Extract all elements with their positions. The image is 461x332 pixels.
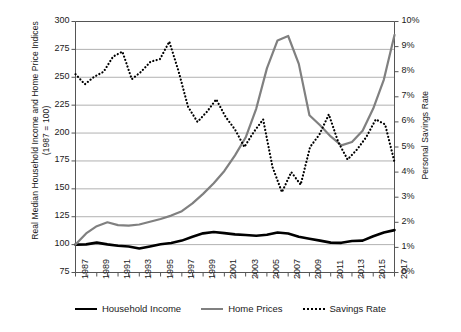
- y-axis-right-tick-label: 6%: [402, 115, 432, 125]
- series-line: [76, 42, 395, 193]
- y-axis-left-tick-label: 175: [34, 154, 70, 164]
- x-axis-tick-label: 2015: [377, 258, 387, 278]
- y-axis-right-tick-label: 2%: [402, 216, 432, 226]
- legend-item[interactable]: Home Prices: [201, 303, 282, 314]
- y-axis-left-tick-label: 200: [34, 127, 70, 137]
- y-axis-right-tick-label: 5%: [402, 141, 432, 151]
- y-axis-right-tick-label: 9%: [402, 40, 432, 50]
- y-axis-left-tick-label: 225: [34, 99, 70, 109]
- y-axis-left-tick-label: 300: [34, 15, 70, 25]
- legend-swatch-dotted-black-line: [303, 308, 325, 310]
- chart-legend: Household IncomeHome PricesSavings Rate: [0, 303, 461, 314]
- legend-swatch-solid-black-line: [75, 308, 97, 310]
- y-axis-left-tick-label: 100: [34, 238, 70, 248]
- y-axis-left-tick-label: 275: [34, 43, 70, 53]
- chart-container: Real Median Household Income and Home Pr…: [0, 0, 461, 332]
- x-axis-tick-label: 2005: [271, 258, 281, 278]
- x-axis-tick-label: 1989: [101, 258, 111, 278]
- legend-swatch-solid-gray-line: [201, 308, 223, 310]
- legend-label: Savings Rate: [330, 303, 387, 314]
- x-axis-tick-label: 1993: [143, 258, 153, 278]
- y-axis-right-tick-label: 7%: [402, 90, 432, 100]
- y-axis-right-tick-label: 1%: [402, 241, 432, 251]
- x-axis-tick-label: 1999: [207, 258, 217, 278]
- series-line: [76, 230, 395, 248]
- x-axis-tick-label: 1987: [80, 258, 90, 278]
- y-axis-right-tick-label: 4%: [402, 166, 432, 176]
- y-axis-left-tick-label: 125: [34, 210, 70, 220]
- x-axis-tick-label: 2013: [356, 258, 366, 278]
- series-line: [76, 35, 395, 245]
- x-axis-tick-label: 2017: [399, 258, 409, 278]
- legend-label: Home Prices: [228, 303, 282, 314]
- x-axis-tick-label: 1997: [186, 258, 196, 278]
- x-axis-tick-label: 2011: [335, 259, 345, 278]
- legend-label: Household Income: [102, 303, 181, 314]
- y-axis-left-tick-label: 150: [34, 182, 70, 192]
- x-axis-tick-label: 2007: [292, 258, 302, 278]
- legend-item[interactable]: Savings Rate: [303, 303, 387, 314]
- y-axis-left-tick-label: 75: [34, 266, 70, 276]
- x-axis-tick-label: 1995: [165, 258, 175, 278]
- x-axis-tick-label: 2001: [228, 258, 238, 278]
- x-axis-tick-label: 1991: [122, 258, 132, 278]
- x-axis-tick-label: 2003: [250, 258, 260, 278]
- y-axis-right-tick-label: 8%: [402, 65, 432, 75]
- x-axis-tick-label: 2009: [313, 258, 323, 278]
- legend-item[interactable]: Household Income: [75, 303, 181, 314]
- y-axis-left-tick-label: 250: [34, 71, 70, 81]
- y-axis-right-tick-label: 10%: [402, 15, 432, 25]
- y-axis-right-tick-label: 3%: [402, 191, 432, 201]
